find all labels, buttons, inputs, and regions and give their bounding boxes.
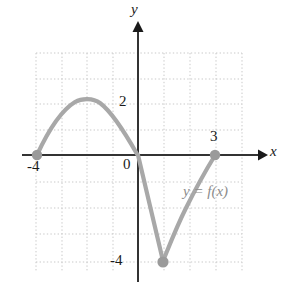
origin-label: 0 (123, 156, 131, 173)
plot-canvas (0, 0, 299, 288)
function-curve (37, 99, 215, 261)
function-graph-figure: y x 2 -4 0 -4 3 y = f(x) (0, 0, 299, 288)
point-minimum (157, 256, 168, 267)
point-x-intercept-3 (210, 150, 220, 160)
x-tick-label-neg4: -4 (27, 158, 40, 175)
x-tick-label-3: 3 (210, 128, 218, 145)
y-tick-label-neg4: -4 (110, 252, 123, 269)
x-axis (22, 150, 268, 161)
y-axis-label: y (131, 1, 138, 18)
x-axis-label: x (270, 143, 277, 160)
y-tick-label-2: 2 (119, 93, 127, 110)
x-axis-arrow-icon (258, 150, 268, 161)
curve-annotation-label: y = f(x) (183, 183, 228, 200)
y-axis-arrow-icon (133, 21, 144, 32)
